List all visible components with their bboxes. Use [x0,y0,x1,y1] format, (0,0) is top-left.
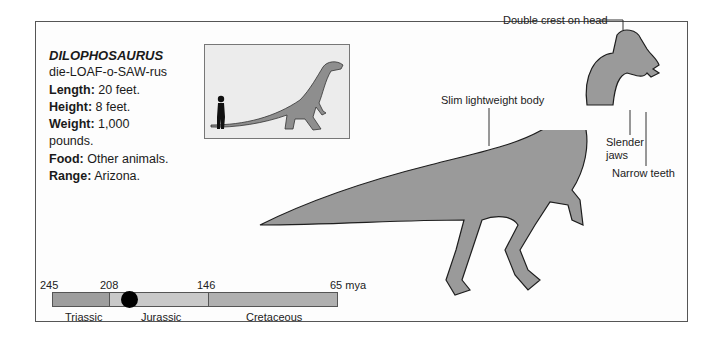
annotation-jaws-1: Slender [606,136,644,148]
timeline-cretaceous [208,292,338,307]
timeline-tick-65: 65 mya [330,279,366,291]
annotation-crest: Double crest on head [503,14,608,26]
scale-comparison-inset [204,44,350,139]
fact-length: Length: 20 feet. [49,82,168,99]
period-triassic-label: Triassic [65,311,102,323]
timeline-tick-208: 208 [100,279,118,291]
timeline-tick-245: 245 [40,279,58,291]
pronunciation: die-LOAF-o-SAW-rus [49,64,168,81]
period-cretaceous-label: Cretaceous [246,311,302,323]
period-jurassic-label: Jurassic [141,311,181,323]
fact-weight: Weight: 1,000 [49,116,168,133]
scale-silhouette-icon [205,45,349,138]
fact-food: Food: Other animals. [49,151,168,168]
timeline-tick-146: 146 [197,279,215,291]
fact-range: Range: Arizona. [49,168,168,185]
fact-list: DILOPHOSAURUS die-LOAF-o-SAW-rus Length:… [49,47,168,185]
fact-height: Height: 8 feet. [49,99,168,116]
fact-weight-cont: pounds. [49,133,168,150]
era-marker-icon [121,291,138,308]
timeline-triassic [52,292,110,307]
annotation-teeth: Narrow teeth [612,167,675,179]
annotation-body: Slim lightweight body [441,94,544,106]
crested-head-icon [575,25,665,115]
annotation-jaws-2: jaws [606,149,628,161]
dinosaur-name: DILOPHOSAURUS [49,47,168,64]
